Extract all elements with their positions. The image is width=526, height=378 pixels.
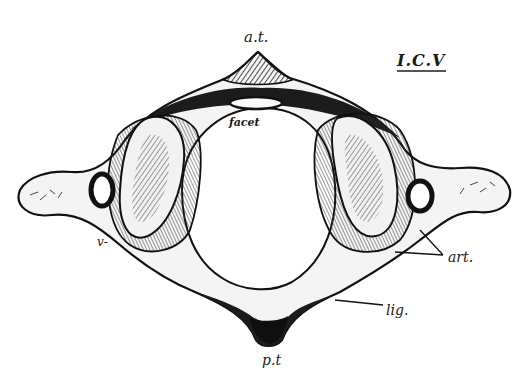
- label-anterior-tubercle: a.t.: [244, 30, 269, 45]
- left-transverse-foramen: [91, 174, 113, 206]
- lig-leader: [335, 300, 383, 305]
- right-transverse-foramen: [408, 181, 432, 211]
- atlas-vertebra-illustration: [0, 0, 526, 378]
- label-facet: facet: [229, 117, 260, 128]
- figure-title: I.C.V: [397, 53, 446, 72]
- label-ligament: lig.: [386, 303, 408, 317]
- label-vertebral: v-: [97, 236, 108, 248]
- art-leader-1: [420, 230, 443, 255]
- anterior-tubercle: [224, 52, 292, 85]
- dens-facet: [230, 97, 282, 109]
- label-articular: art.: [448, 250, 473, 264]
- label-posterior-tubercle: p.t: [262, 353, 281, 367]
- vertebral-foramen: [182, 108, 335, 289]
